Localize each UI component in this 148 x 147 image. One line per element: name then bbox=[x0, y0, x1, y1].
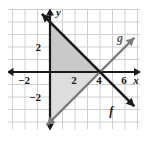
y-tick-label--2: −2 bbox=[29, 91, 41, 103]
graph-canvas: −22462−2 x y f g bbox=[0, 0, 148, 147]
x-tick-label--2: −2 bbox=[18, 74, 30, 86]
x-tick-label-4: 4 bbox=[96, 74, 102, 86]
x-axis-label: x bbox=[132, 74, 139, 86]
y-tick-label-2: 2 bbox=[36, 41, 42, 53]
y-axis-label: y bbox=[54, 6, 61, 18]
x-tick-label-6: 6 bbox=[121, 74, 127, 86]
coordinate-plane-figure: −22462−2 x y f g bbox=[0, 0, 148, 147]
x-tick-label-2: 2 bbox=[71, 74, 77, 86]
line-g-label: g bbox=[116, 31, 123, 45]
